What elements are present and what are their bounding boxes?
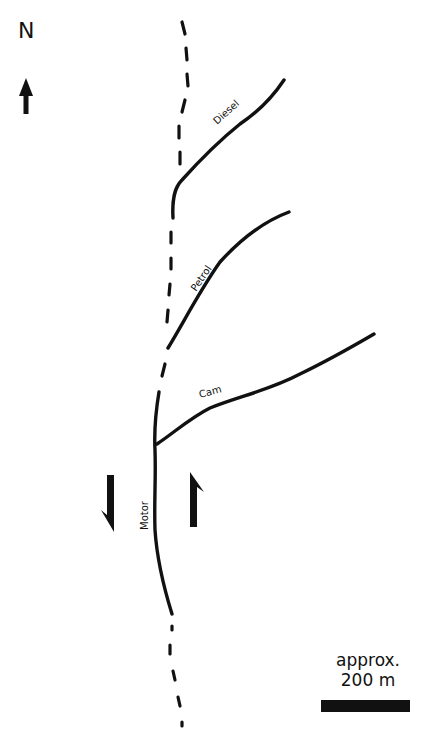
fault-map-canvas: Diesel Petrol Motor Cam: [0, 0, 429, 733]
fault-diesel: [173, 80, 284, 218]
fault-label-diesel: Diesel: [211, 98, 241, 127]
north-arrow-icon: [19, 78, 33, 114]
main-fault-dashed-mid: [167, 232, 171, 322]
fault-cam: [157, 334, 374, 444]
scale-label-approx: approx.: [322, 650, 414, 670]
main-fault-dashed-south: [170, 626, 182, 726]
motion-arrow-down-left: [101, 475, 114, 532]
fault-label-motor: Motor: [139, 500, 150, 530]
main-fault-dashed-lower: [162, 364, 165, 376]
fault-label-cam: Cam: [198, 383, 223, 400]
scale-label-distance: 200 m: [322, 670, 414, 690]
fault-motor: [155, 392, 172, 614]
main-fault-dashed-north: [179, 22, 188, 164]
fault-petrol: [168, 212, 289, 348]
scale-bar: [321, 700, 410, 712]
motion-arrow-up-right: [190, 472, 204, 527]
